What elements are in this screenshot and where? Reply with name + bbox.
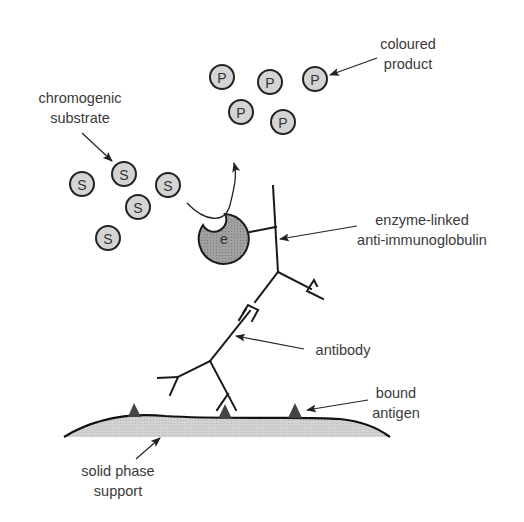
substrate-molecule: S bbox=[156, 173, 180, 197]
product-molecule: P bbox=[258, 70, 282, 94]
label-coloured-product: coloured product bbox=[372, 34, 444, 74]
svg-text:S: S bbox=[119, 167, 128, 183]
antigen-triangle-icon bbox=[128, 403, 141, 417]
enzyme-glyph: e bbox=[220, 231, 228, 247]
svg-text:P: P bbox=[236, 105, 245, 121]
substrate-molecule: S bbox=[70, 172, 94, 196]
label-line: support bbox=[70, 481, 166, 501]
svg-text:P: P bbox=[265, 75, 274, 91]
diagram-canvas: e S S S S S P P P P P bbox=[0, 0, 524, 522]
label-antibody: antibody bbox=[308, 340, 378, 360]
label-line: anti-immunoglobulin bbox=[342, 230, 502, 250]
product-molecule: P bbox=[271, 110, 295, 134]
arrow-antibody bbox=[236, 336, 304, 349]
label-line: substrate bbox=[30, 108, 130, 128]
substrate-molecule: S bbox=[112, 162, 136, 186]
arrow-bound-antigen bbox=[307, 400, 368, 410]
label-chromogenic-substrate: chromogenic substrate bbox=[30, 88, 130, 128]
product-molecule: P bbox=[229, 100, 253, 124]
enzyme-linked-anti-immunoglobulin bbox=[239, 186, 323, 321]
antibody bbox=[158, 311, 250, 410]
label-line: product bbox=[372, 54, 444, 74]
label-enzyme-linked-anti-immunoglobulin: enzyme-linked anti-immunoglobulin bbox=[342, 210, 502, 250]
product-molecules: P P P P P bbox=[210, 65, 327, 134]
svg-text:S: S bbox=[133, 200, 142, 216]
substrate-molecules: S S S S S bbox=[70, 162, 180, 250]
svg-text:S: S bbox=[163, 178, 172, 194]
substrate-molecule: S bbox=[126, 195, 150, 219]
antigen-triangle-icon bbox=[288, 403, 302, 418]
label-line: chromogenic bbox=[30, 88, 130, 108]
label-bound-antigen: bound antigen bbox=[365, 383, 427, 423]
substrate-molecule: S bbox=[96, 226, 120, 250]
reaction-arrow bbox=[187, 163, 235, 218]
arrow-chromogenic-substrate bbox=[82, 133, 112, 161]
label-line: bound bbox=[365, 383, 427, 403]
enzyme: e bbox=[199, 214, 249, 264]
label-line: enzyme-linked bbox=[342, 210, 502, 230]
product-molecule: P bbox=[303, 67, 327, 91]
label-solid-phase-support: solid phase support bbox=[70, 461, 166, 501]
label-line: coloured bbox=[372, 34, 444, 54]
label-line: antigen bbox=[365, 403, 427, 423]
label-line: solid phase bbox=[70, 461, 166, 481]
arrow-solid-phase bbox=[136, 438, 160, 459]
product-molecule: P bbox=[210, 65, 234, 89]
svg-text:S: S bbox=[103, 231, 112, 247]
svg-text:S: S bbox=[77, 177, 86, 193]
svg-text:P: P bbox=[217, 70, 226, 86]
svg-text:P: P bbox=[278, 115, 287, 131]
label-line: antibody bbox=[308, 340, 378, 360]
svg-text:P: P bbox=[310, 72, 319, 88]
arrow-coloured-product bbox=[330, 58, 377, 75]
elisa-diagram: e S S S S S P P P P P bbox=[0, 0, 524, 522]
